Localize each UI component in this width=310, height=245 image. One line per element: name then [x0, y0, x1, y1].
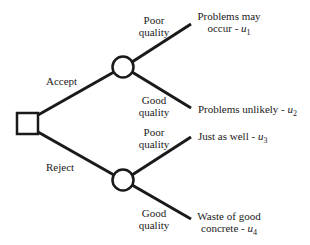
- branch-label-reject: Reject: [46, 161, 74, 173]
- outcome-u1: Problems may occur - u1: [196, 10, 262, 39]
- condition-reject-good: Good quality: [136, 207, 172, 231]
- outcome-u3: Just as well - u3: [198, 130, 267, 147]
- condition-accept-good: Good quality: [136, 94, 172, 118]
- branch-label-accept: Accept: [46, 75, 77, 87]
- outcome-u2: Problems unlikely - u2: [198, 103, 297, 120]
- chance-node-reject: [113, 170, 134, 191]
- condition-reject-poor: Poor quality: [136, 126, 172, 150]
- chance-node-accept: [113, 57, 134, 78]
- outcome-u4: Waste of good concrete - u4: [195, 210, 263, 239]
- decision-node-square: [17, 113, 38, 134]
- condition-accept-poor: Poor quality: [136, 14, 172, 38]
